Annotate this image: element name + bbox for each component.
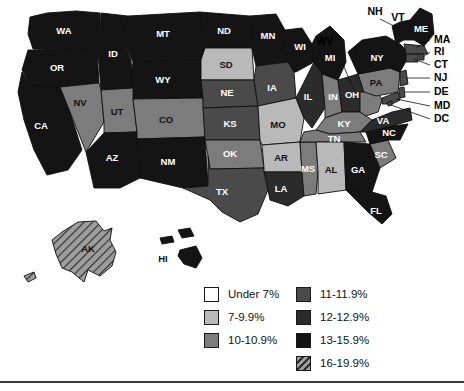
- legend-swatch-icon: [296, 287, 311, 302]
- callout-label-NJ: NJ: [434, 71, 448, 83]
- legend-swatch-hatch-icon: [296, 356, 311, 371]
- legend-label: 11-11.9%: [320, 289, 368, 301]
- state-MT[interactable]: [123, 12, 205, 62]
- us-map: WA OR CA ID NV MT WY UT AZ CO NM ND SD N…: [0, 0, 464, 286]
- legend-item[interactable]: 13-15.9%: [296, 329, 416, 352]
- callout-label-RI: RI: [434, 45, 445, 57]
- callout-label-CT: CT: [434, 58, 449, 70]
- legend-label: 7-9.9%: [228, 312, 264, 324]
- state-ND[interactable]: [200, 12, 252, 48]
- legend-label: 12-12.9%: [320, 312, 369, 324]
- state-WY[interactable]: [131, 60, 203, 99]
- legend-swatch-icon: [296, 310, 311, 325]
- state-CO[interactable]: [133, 98, 205, 139]
- callout-label-VT: VT: [391, 11, 405, 23]
- state-OK[interactable]: [205, 140, 264, 169]
- legend-item[interactable]: 11-11.9%: [296, 283, 416, 306]
- legend-label: 10-10.9%: [228, 335, 277, 347]
- callout-label-WV: WV: [317, 35, 334, 47]
- legend-label: Under 7%: [228, 289, 279, 301]
- state-WA[interactable]: [28, 11, 101, 50]
- legend-label: 16-19.9%: [320, 358, 369, 370]
- legend-item[interactable]: 16-19.9%: [296, 352, 416, 375]
- callout-label-NH: NH: [367, 5, 382, 17]
- state-KS[interactable]: [203, 106, 260, 140]
- map-legend: Under 7% 7-9.9% 10-10.9% 11-11.9% 12-12.…: [204, 283, 456, 375]
- legend-swatch-icon: [296, 333, 311, 348]
- bottom-divider: [0, 381, 464, 383]
- legend-label: 13-15.9%: [320, 335, 369, 347]
- legend-swatch-icon: [204, 310, 219, 325]
- callout-label-MD: MD: [434, 99, 451, 111]
- state-MO[interactable]: [258, 98, 304, 145]
- legend-swatch-icon: [204, 287, 219, 302]
- us-map-svg: WA OR CA ID NV MT WY UT AZ CO NM ND SD N…: [0, 0, 464, 286]
- state-DE[interactable]: [399, 87, 405, 98]
- callout-label-DE: DE: [434, 85, 449, 97]
- state-SD[interactable]: [201, 48, 254, 80]
- state-OR[interactable]: [22, 48, 99, 87]
- callout-label-MA: MA: [434, 33, 451, 45]
- state-AR[interactable]: [262, 142, 302, 172]
- legend-item[interactable]: 12-12.9%: [296, 306, 416, 329]
- callout-label-DC: DC: [434, 112, 450, 124]
- choropleth-figure: WA OR CA ID NV MT WY UT AZ CO NM ND SD N…: [0, 0, 464, 391]
- legend-column-right: 11-11.9% 12-12.9% 13-15.9% 16-19.9%: [296, 283, 416, 375]
- state-NE[interactable]: [201, 80, 258, 108]
- state-CT[interactable]: [406, 54, 418, 62]
- state-AL[interactable]: [316, 142, 346, 194]
- state-UT[interactable]: [101, 88, 137, 133]
- legend-swatch-icon: [204, 333, 219, 348]
- state-HI[interactable]: [160, 236, 174, 244]
